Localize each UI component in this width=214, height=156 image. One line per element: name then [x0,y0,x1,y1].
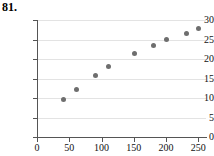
y-axis-tick-label: 30 [196,15,214,25]
y-axis-tick-label: 25 [196,35,214,45]
y-axis-tick [33,59,37,60]
y-axis-tick [33,40,37,41]
data-point [74,87,79,92]
gridline-horizontal [37,59,206,60]
y-axis-tick-labels [11,0,31,156]
y-axis-tick [33,98,37,99]
y-axis-tick-label: 10 [196,93,214,103]
x-axis-tick-label: 0 [25,143,49,153]
data-point [132,51,137,56]
y-axis-tick-label: 20 [196,54,214,64]
x-axis-line [37,137,207,138]
scatter-plot-figure: 81. 051015202530050100150200250 [0,0,214,156]
y-axis-line [37,20,38,138]
gridline-horizontal [37,40,206,41]
x-axis-tick-label: 150 [122,143,146,153]
x-axis-tick-label: 200 [154,143,178,153]
gridline-horizontal [37,79,206,80]
y-axis-tick-label: 5 [196,113,214,123]
y-axis-tick [33,118,37,119]
x-axis-tick-label: 100 [90,143,114,153]
y-axis-tick [33,20,37,21]
plot-area [37,20,206,137]
y-axis-tick-label: 15 [196,74,214,84]
x-axis-tick-label: 250 [186,143,210,153]
data-point [61,97,66,102]
y-axis-tick [33,79,37,80]
x-axis-tick-label: 50 [57,143,81,153]
gridline-horizontal [37,20,206,21]
gridline-horizontal [37,118,206,119]
data-point [184,31,189,36]
